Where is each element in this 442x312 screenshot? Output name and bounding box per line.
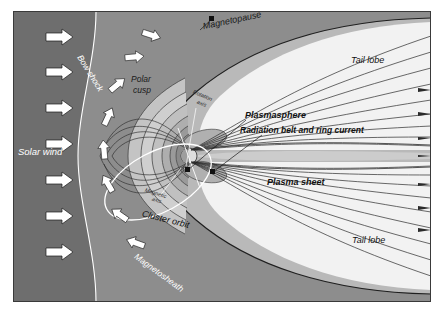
label-polar-cusp-line1: Polar <box>131 74 152 84</box>
magnetosphere-diagram-canvas: Solar wind Bow shock Magnetosheath Magne… <box>0 0 442 312</box>
label-tail-lobe-lower: Tail lobe <box>352 235 385 245</box>
label-solar-wind: Solar wind <box>18 146 63 157</box>
label-polar-cusp-line2: cusp <box>133 85 151 95</box>
label-radiation-belt: Radiation belt and ring current <box>240 125 365 135</box>
label-plasma-sheet: Plasma sheet <box>267 177 326 187</box>
figure-body: Solar wind Bow shock Magnetosheath Magne… <box>13 9 431 302</box>
magnetosphere-figure: Solar wind Bow shock Magnetosheath Magne… <box>0 0 442 312</box>
label-tail-lobe-upper: Tail lobe <box>351 55 384 65</box>
label-plasmasphere: Plasmasphere <box>245 110 306 120</box>
